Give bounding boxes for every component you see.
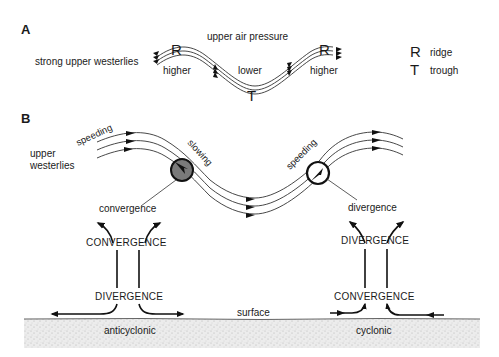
right-convergence-caps: CONVERGENCE [334,291,415,302]
trough-symbol: T [247,87,256,104]
ridge-right-symbol: R [319,41,330,58]
panel-b: B upper westerlies speeding slowing spee… [21,111,480,348]
legend-ridge-symbol: R [410,43,421,60]
anticyclonic-label: anticyclonic [104,325,156,336]
cyclonic-label: cyclonic [356,325,392,336]
panel-a-label: A [21,22,31,37]
legend-ridge-label: ridge [430,47,453,58]
upper-divergence-label: divergence [348,202,397,213]
left-column-anticyclonic: CONVERGENCE DIVERGENCE [52,223,183,314]
divergence-leader-line [327,179,357,200]
slowing-zone-circle [171,159,193,181]
upper-air-pressure-title: upper air pressure [207,31,289,42]
right-divergence-caps: DIVERGENCE [341,235,409,246]
surface-label: surface [237,307,270,318]
right-column-cyclonic: DIVERGENCE CONVERGENCE [330,222,444,318]
legend: R ridge T trough [410,43,458,78]
panel-a: A upper air pressure strong upper wester… [21,22,458,104]
higher-right-label: higher [310,65,338,76]
ridge-left-symbol: R [171,41,182,58]
speeding-zone-circle [307,162,329,184]
left-convergence-caps: CONVERGENCE [86,237,167,248]
speeding-left-label: speeding [74,122,114,148]
strong-upper-westerlies-caption: strong upper westerlies [35,56,138,67]
upper-flow-arrowheads [124,130,381,218]
higher-left-label: higher [163,65,191,76]
upper-air-flow-diagram: A upper air pressure strong upper wester… [0,0,499,357]
legend-trough-label: trough [430,65,458,76]
ground-surface [24,319,480,349]
panel-b-label: B [21,111,30,126]
upper-westerlies-line2: westerlies [29,160,74,171]
upper-westerlies-line1: upper [30,148,56,159]
upper-convergence-label: convergence [99,203,157,214]
lower-label: lower [238,65,263,76]
legend-trough-symbol: T [410,61,419,78]
left-divergence-caps: DIVERGENCE [95,291,163,302]
